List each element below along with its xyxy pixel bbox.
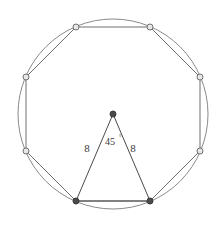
- vertex-markers: [23, 24, 203, 204]
- octagon-vertex-left-lower: [23, 148, 29, 154]
- octagon-vertex-bottom-right: [147, 198, 153, 204]
- left-side-length-label: 8: [84, 142, 90, 154]
- geometry-canvas: 8 8 45 °: [0, 0, 224, 229]
- central-angle-label: 45: [105, 136, 115, 147]
- right-side-length-label: 8: [130, 142, 136, 154]
- octagon-vertex-top-right: [147, 24, 153, 30]
- central-triangle: [76, 114, 150, 201]
- octagon-vertex-right-lower: [197, 148, 203, 154]
- geometry-figure: 8 8 45 °: [0, 0, 224, 229]
- octagon-vertex-right-upper: [197, 74, 203, 80]
- octagon-vertex-bottom-left: [73, 198, 79, 204]
- octagon-vertex-top-left: [73, 24, 79, 30]
- octagon-vertex-left-upper: [23, 74, 29, 80]
- circle-center-apex: [110, 111, 116, 117]
